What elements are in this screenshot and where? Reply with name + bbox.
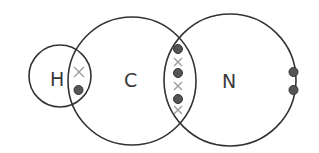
hcn-diagram: H C N [0,0,319,153]
cross-icon [74,67,84,77]
dot-icon [289,86,298,95]
atom-label-h: H [50,68,64,90]
atom-label-n: N [222,70,236,92]
cross-icon [174,82,182,90]
cross-icon [174,106,182,114]
dot-icon [174,45,183,54]
dot-icon [174,69,183,78]
dot-icon [74,86,83,95]
dot-icon [174,95,183,104]
atom-label-c: C [124,69,137,91]
cross-icon [174,58,182,66]
dot-icon [289,68,298,77]
